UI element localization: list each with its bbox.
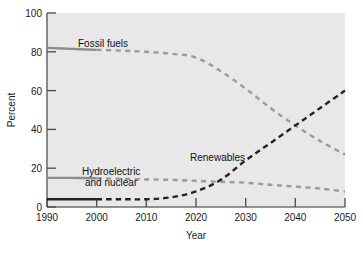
series-label-hydro-line1: Hydroelectric xyxy=(82,166,140,177)
series-label-hydro-line2: and nuclear xyxy=(85,177,138,188)
y-tick-label-40: 40 xyxy=(31,124,43,135)
x-tick-label-1990: 1990 xyxy=(36,212,59,223)
x-tick-label-2000: 2000 xyxy=(86,212,109,223)
y-tick-label-20: 20 xyxy=(31,163,43,174)
y-tick-label-60: 60 xyxy=(31,86,43,97)
y-tick-label-100: 100 xyxy=(25,8,42,19)
x-tick-label-2020: 2020 xyxy=(185,212,208,223)
x-tick-label-2010: 2010 xyxy=(135,212,158,223)
y-axis-title: Percent xyxy=(6,93,17,128)
x-tick-label-2050: 2050 xyxy=(334,212,357,223)
series-label-renewables: Renewables xyxy=(190,152,245,163)
x-tick-label-2040: 2040 xyxy=(284,212,307,223)
y-tick-label-80: 80 xyxy=(31,47,43,58)
energy-mix-projection-chart: 100 80 60 40 20 0 1990 2000 2010 2020 20… xyxy=(0,0,363,269)
series-label-fossil-fuels: Fossil fuels xyxy=(78,38,128,49)
chart-figure: 100 80 60 40 20 0 1990 2000 2010 2020 20… xyxy=(0,0,363,269)
x-axis-title: Year xyxy=(186,230,207,241)
x-tick-label-2030: 2030 xyxy=(235,212,258,223)
